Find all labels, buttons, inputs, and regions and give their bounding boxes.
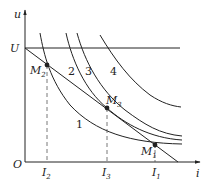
point-M1 xyxy=(153,143,158,148)
curve-label-1: 1 xyxy=(76,118,83,131)
point-label-M2: M2 xyxy=(29,64,46,79)
curve-2 xyxy=(66,33,182,140)
origin-label: O xyxy=(13,158,22,171)
point-label-M3: M3 xyxy=(105,94,122,109)
curve-label-2: 2 xyxy=(68,65,75,78)
point-M2 xyxy=(45,63,50,68)
u-axis-label: u xyxy=(14,8,21,21)
current-label-I3: I3 xyxy=(101,166,111,181)
voltage-label-U: U xyxy=(10,42,20,55)
curve-label-3: 3 xyxy=(85,65,92,78)
volt-ampere-diagram: u i O U 1 2 3 4 M2 M3 M1 I2 I3 I1 xyxy=(0,0,215,188)
i-axis-label: i xyxy=(196,167,200,180)
curve-label-4: 4 xyxy=(110,65,117,78)
current-label-I2: I2 xyxy=(41,166,51,181)
current-label-I1: I1 xyxy=(151,166,161,181)
curve-1 xyxy=(40,33,182,144)
